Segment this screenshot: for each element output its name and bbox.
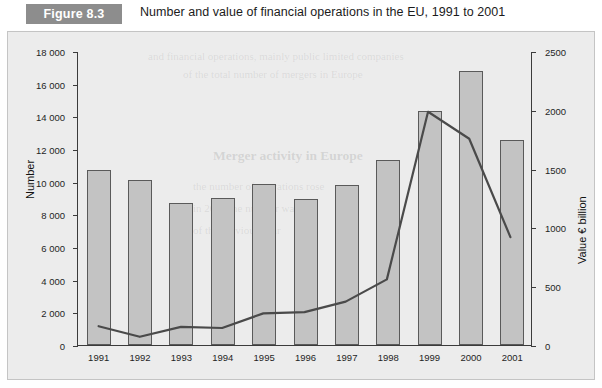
figure-number-badge: Figure 8.3 <box>26 4 122 24</box>
x-axis-label: 1999 <box>409 352 450 363</box>
right-tick-mark: 1000 <box>531 228 536 229</box>
left-tick-label: 14 000 <box>36 113 65 123</box>
x-axis-label: 1994 <box>202 352 243 363</box>
x-axis-label: 2001 <box>492 352 533 363</box>
figure-title: Number and value of financial operations… <box>140 5 505 19</box>
right-tick-label: 2500 <box>545 48 566 58</box>
left-tick-label: 8 000 <box>41 211 65 221</box>
right-axis-title: Value € billion <box>576 196 588 264</box>
left-tick-label: 2 000 <box>41 309 65 319</box>
x-axis-label: 1991 <box>78 352 119 363</box>
left-tick-label: 18 000 <box>36 48 65 58</box>
right-tick-label: 2000 <box>545 107 566 117</box>
left-tick-label: 4 000 <box>41 277 65 287</box>
right-tick-mark: 1500 <box>531 170 536 171</box>
right-tick-label: 1000 <box>545 224 566 234</box>
right-tick-mark: 500 <box>531 287 536 288</box>
figure-header: Figure 8.3 Number and value of financial… <box>0 0 602 30</box>
x-axis-label: 1998 <box>368 352 409 363</box>
x-axis-label: 1995 <box>243 352 284 363</box>
left-axis-title: Number <box>24 160 36 199</box>
x-axis-label: 1996 <box>285 352 326 363</box>
left-tick-label: 16 000 <box>36 81 65 91</box>
x-axis-label: 1997 <box>326 352 367 363</box>
figure-container: Figure 8.3 Number and value of financial… <box>0 0 602 388</box>
value-line-path <box>99 112 511 337</box>
right-tick-mark: 0 <box>531 346 536 347</box>
left-tick-label: 10 000 <box>36 179 65 189</box>
left-tick-label: 6 000 <box>41 244 65 254</box>
chart-panel: Merger activity in Europe and financial … <box>7 31 595 380</box>
left-tick-label: 0 <box>60 342 65 352</box>
plot-area: 18 00016 00014 00012 00010 0008 0006 000… <box>77 52 532 346</box>
x-axis-label: 1993 <box>161 352 202 363</box>
x-axis-label: 2000 <box>450 352 491 363</box>
right-tick-label: 1500 <box>545 166 566 176</box>
left-tick-label: 12 000 <box>36 146 65 156</box>
right-tick-mark: 2500 <box>531 52 536 53</box>
left-tick-mark: 0 <box>73 346 78 347</box>
line-series <box>78 52 531 345</box>
x-axis-label: 1992 <box>119 352 160 363</box>
right-tick-label: 0 <box>545 342 550 352</box>
right-tick-mark: 2000 <box>531 111 536 112</box>
right-tick-label: 500 <box>545 283 561 293</box>
